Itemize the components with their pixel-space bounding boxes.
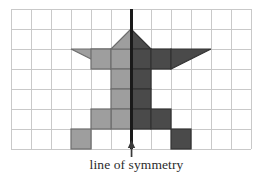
right-arm-square-a <box>131 49 151 69</box>
right-foot-square-upper <box>151 109 171 129</box>
symmetry-diagram <box>0 0 273 179</box>
left-leg-square <box>111 109 131 129</box>
left-body-square-b <box>111 89 131 109</box>
arrow-head <box>128 140 135 148</box>
left-arm-square-b <box>111 49 131 69</box>
right-body-square-a <box>131 69 151 89</box>
left-foot-square-lower <box>71 129 91 149</box>
right-foot-square-lower <box>171 129 191 149</box>
right-leg-square <box>131 109 151 129</box>
left-foot-square-upper <box>91 109 111 129</box>
left-arm-square-a <box>91 49 111 69</box>
right-arm-square-b <box>151 49 171 69</box>
arrow-shaft <box>131 147 133 157</box>
caption-line-of-symmetry: line of symmetry <box>0 157 273 173</box>
right-body-square-b <box>131 89 151 109</box>
symmetry-figure-page: line of symmetry <box>0 0 273 179</box>
right-apex-triangle <box>131 29 151 49</box>
left-body-square-a <box>111 69 131 89</box>
up-arrow-icon <box>128 140 135 157</box>
left-apex-triangle <box>111 29 131 49</box>
